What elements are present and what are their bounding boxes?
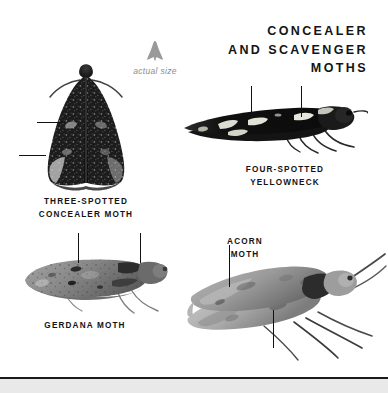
leader-line-gerdana-left [78,233,79,263]
three-spotted-concealer-moth-illustration [30,56,142,191]
plate-canvas: CONCEALER AND SCAVENGER MOTHS actual siz… [0,0,388,393]
page-title-line-1: CONCEALER [148,22,368,41]
leader-line-acorn-lower [273,310,274,348]
caption-line-2: MOTH [205,249,285,262]
caption-line-2: YELLOWNECK [205,177,365,190]
specimen-three-spotted-concealer-moth [30,56,142,191]
caption-line-1: FOUR-SPOTTED [205,164,365,177]
footer-strip [0,379,388,393]
caption-line-1: THREE-SPOTTED [6,196,166,209]
leader-line-yellowneck-left [251,86,252,114]
caption-line-1: GERDANA MOTH [5,320,165,333]
caption-acorn-moth: ACORN MOTH [205,236,285,261]
specimen-gerdana-moth [22,253,184,315]
specimen-four-spotted-yellowneck [178,98,368,160]
caption-line-1: ACORN [205,236,285,249]
acorn-moth-illustration [186,252,388,362]
leader-line-three-spotted-lower [19,155,46,156]
leader-line-gerdana-right [140,233,141,263]
gerdana-moth-illustration [22,253,184,315]
leader-line-yellowneck-right [301,86,302,117]
caption-four-spotted-yellowneck: FOUR-SPOTTED YELLOWNECK [205,164,365,189]
four-spotted-yellowneck-illustration [178,98,368,160]
specimen-acorn-moth [186,252,388,362]
caption-three-spotted-concealer-moth: THREE-SPOTTED CONCEALER MOTH [6,196,166,221]
leader-line-three-spotted-upper [37,122,63,123]
moth-silhouette-icon [145,41,165,63]
page-title-line-2: AND SCAVENGER [148,41,368,60]
caption-gerdana-moth: GERDANA MOTH [5,320,165,333]
caption-line-2: CONCEALER MOTH [6,209,166,222]
